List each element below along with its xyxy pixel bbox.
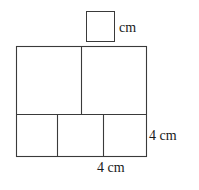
bottom-side-dimension-label: 4 cm [97,161,125,175]
right-side-dimension-label: 4 cm [149,129,177,143]
geometry-figure: cm 4 cm 4 cm [0,0,199,190]
unknown-value-box[interactable] [87,12,115,42]
unknown-unit-label: cm [119,21,136,35]
